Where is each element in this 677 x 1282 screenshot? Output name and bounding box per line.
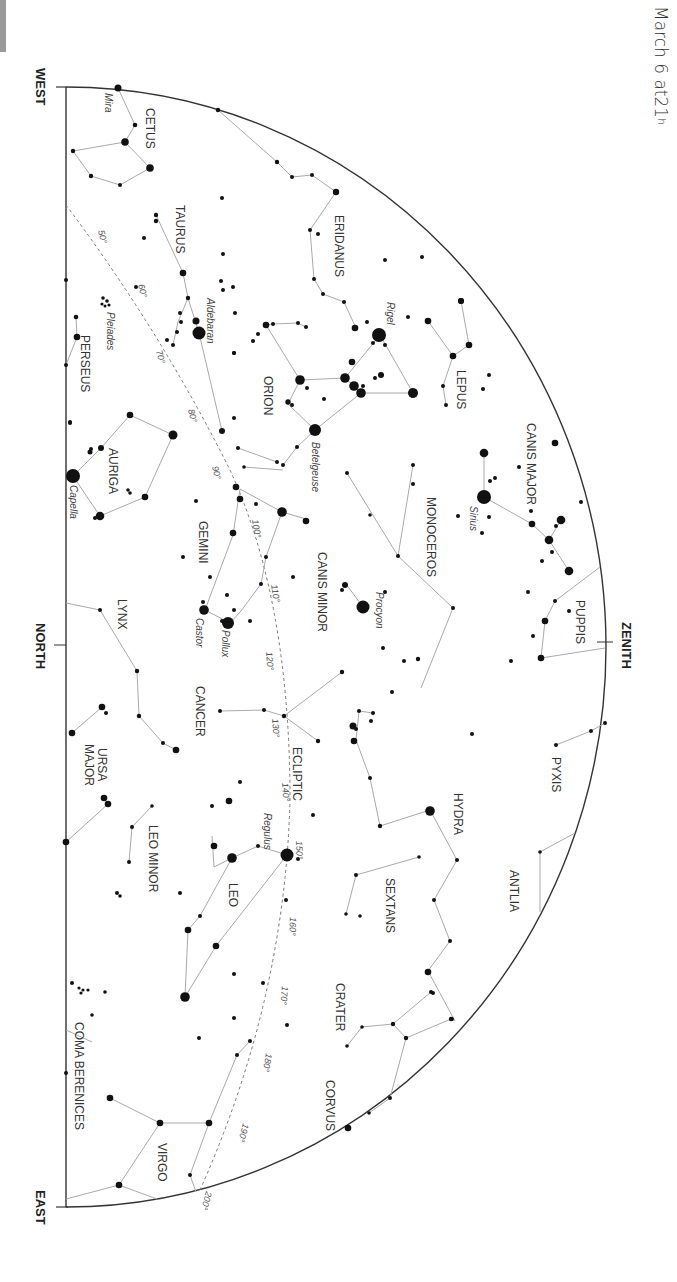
label-ecliptic: ECLIPTIC	[290, 747, 304, 801]
label-corvus: CORVUS	[323, 1080, 337, 1131]
north-label: NORTH	[33, 623, 48, 669]
label-major: MAJOR	[82, 744, 96, 786]
label-crater: CRATER	[333, 983, 347, 1032]
label-castor: Castor	[194, 618, 205, 648]
ecliptic-tick-120: 120°	[264, 651, 276, 671]
label-leo: LEO	[226, 883, 240, 907]
label-pollux: Pollux	[220, 630, 231, 658]
label-canis-major: CANIS MAJOR	[524, 423, 538, 505]
label-mira: Mira	[103, 93, 114, 113]
label-lynx: LYNX	[115, 599, 129, 629]
ecliptic-tick-170: 170°	[278, 986, 290, 1006]
label-capella: Capella	[68, 485, 79, 519]
label-aldebaran: Aldebaran	[205, 297, 216, 344]
ecliptic-tick-70: 70°	[154, 349, 167, 365]
label-rigel: Rigel	[385, 302, 396, 326]
label-gemini: GEMINI	[196, 521, 210, 564]
label-puppis: PUPPIS	[573, 600, 587, 644]
ecliptic-tick-110: 110°	[269, 584, 282, 604]
label-leo-minor: LEO MINOR	[146, 825, 160, 893]
label-canis-minor: CANIS MINOR	[315, 552, 329, 632]
ecliptic-tick-100: 100°	[250, 519, 263, 539]
label-ursa: URSA	[95, 748, 109, 781]
label-sirius: Sirius	[468, 506, 479, 531]
label-cetus: CETUS	[143, 108, 157, 149]
label-perseus: PERSEUS	[78, 335, 92, 392]
ecliptic-line	[66, 205, 290, 1190]
ecliptic-tick-60: 60°	[136, 283, 149, 299]
label-lepus: LEPUS	[454, 370, 468, 409]
label-virgo: VIRGO	[155, 1143, 169, 1182]
label-regulus: Regulus	[262, 813, 273, 850]
label-sextans: SEXTANS	[383, 878, 397, 933]
label-coma-berenices: COMA BERENICES	[72, 1022, 86, 1130]
ecliptic-tick-200: 200°	[199, 1190, 214, 1212]
label-taurus: TAURUS	[173, 205, 187, 253]
ecliptic-tick-50: 50°	[96, 229, 109, 245]
ecliptic-tick-80: 80°	[186, 408, 199, 424]
ecliptic-tick-180: 180°	[261, 1053, 274, 1073]
ecliptic-tick-140: 140°	[280, 782, 292, 802]
label-pleiades: Pleiades	[105, 312, 116, 350]
zenith-label: ZENITH	[619, 622, 634, 669]
label-antlia: ANTLIA	[507, 870, 521, 912]
label-monoceros: MONOCEROS	[424, 497, 438, 577]
ecliptic-tick-150: 150°	[294, 841, 305, 860]
ecliptic-tick-130: 130°	[270, 718, 282, 738]
ecliptic-tick-190: 190°	[236, 1122, 251, 1143]
constellation-labels: CETUS TAURUS ERIDANUS PERSEUS ORION LEPU…	[72, 108, 587, 1182]
ecliptic-tick-90: 90°	[210, 465, 223, 481]
label-pyxis: PYXIS	[549, 757, 563, 792]
label-eridanus: ERIDANUS	[332, 215, 346, 277]
label-hydra: HYDRA	[451, 793, 465, 835]
label-procyon: Procyon	[374, 592, 385, 629]
ecliptic-tick-160: 160°	[287, 917, 298, 936]
label-betelgeuse: Betelgeuse	[310, 442, 321, 492]
label-orion: ORION	[261, 376, 275, 415]
star-chart: WEST NORTH EAST ZENITH	[0, 0, 677, 1282]
label-cancer: CANCER	[193, 686, 207, 737]
west-label: WEST	[33, 68, 48, 106]
east-label: EAST	[33, 1190, 48, 1225]
label-auriga: AURIGA	[106, 448, 120, 494]
